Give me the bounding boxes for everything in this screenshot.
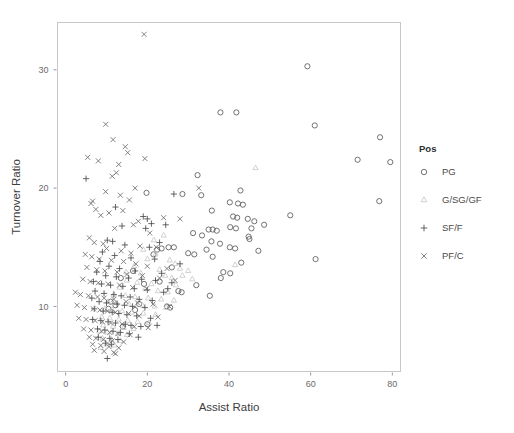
- x-tick-label: 80: [387, 379, 397, 389]
- y-tick-label: 10: [38, 302, 48, 312]
- y-axis-title: Turnover Ratio: [10, 159, 22, 235]
- figure-background: [0, 0, 514, 433]
- legend-key-bg: [412, 161, 434, 183]
- legend-label: SF/F: [442, 222, 463, 233]
- legend-label: PG: [442, 166, 456, 177]
- y-tick-label: 30: [38, 65, 48, 75]
- legend-key-bg: [412, 245, 434, 267]
- x-tick-label: 40: [224, 379, 234, 389]
- legend-label: G/SG/GF: [442, 194, 482, 205]
- scatter-plot-figure: 020406080 102030 Assist Ratio Turnover R…: [0, 0, 514, 433]
- y-tick-label: 20: [38, 183, 48, 193]
- x-tick-label: 0: [63, 379, 68, 389]
- x-tick-label: 20: [142, 379, 152, 389]
- x-axis-title: Assist Ratio: [199, 401, 260, 413]
- legend-key-bg: [412, 189, 434, 211]
- x-tick-label: 60: [306, 379, 316, 389]
- legend-label: PF/C: [442, 250, 464, 261]
- plot-canvas: 020406080 102030 Assist Ratio Turnover R…: [0, 0, 514, 433]
- legend-title: Pos: [419, 143, 436, 154]
